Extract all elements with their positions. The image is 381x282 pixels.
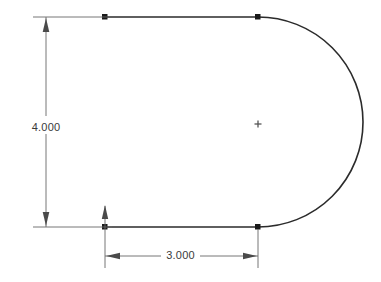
arrowhead-down-icon [43, 212, 50, 226]
arc-center-mark-icon [255, 121, 262, 128]
dimension-vertical-height[interactable]: 4.000 [32, 17, 112, 227]
arrowhead-witness-up-icon [102, 205, 108, 219]
dimension-label-width[interactable]: 3.000 [166, 249, 195, 261]
dimension-label-height[interactable]: 4.000 [32, 121, 61, 133]
arrowhead-up-icon [43, 18, 50, 32]
endpoint-marker-bottom-right[interactable] [255, 224, 261, 230]
profile-geometry[interactable] [102, 14, 363, 230]
arrowhead-right-icon [243, 253, 257, 259]
arrowhead-left-icon [106, 253, 120, 259]
cad-sketch-canvas[interactable]: 4.000 3.000 [0, 0, 381, 282]
endpoint-marker-top-right[interactable] [255, 14, 261, 20]
dimension-horizontal-width[interactable]: 3.000 [102, 205, 258, 268]
sketch-drawing-area[interactable]: 4.000 3.000 [0, 0, 381, 282]
profile-right-arc[interactable] [258, 17, 363, 227]
